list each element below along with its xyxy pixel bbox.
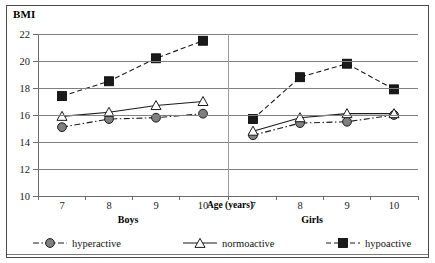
y-axis-title: BMI <box>13 8 36 20</box>
x-tick-label-girls-10: 10 <box>383 200 405 211</box>
data-point <box>58 92 67 101</box>
data-point <box>198 97 208 106</box>
x-tick-mark <box>179 196 180 200</box>
legend-entry-hyperactive[interactable]: hyperactive <box>33 233 121 253</box>
panel-title-boys: Boys <box>88 214 168 225</box>
data-point <box>343 117 352 126</box>
panel-divider <box>228 34 229 197</box>
y-tick-label: 14 <box>4 137 30 148</box>
x-tick-label-boys-9: 9 <box>145 200 167 211</box>
legend-key-hyperactive <box>33 236 67 250</box>
data-point <box>199 109 208 118</box>
x-tick-mark <box>85 196 86 200</box>
x-tick-mark <box>418 196 419 200</box>
y-tick-label: 16 <box>4 110 30 121</box>
legend-key-normoactive <box>183 236 217 250</box>
x-tick-label-boys-8: 8 <box>98 200 120 211</box>
x-tick-label-girls-8: 8 <box>289 200 311 211</box>
y-tick-label: 20 <box>4 56 30 67</box>
bmi-growth-chart: BMI 22 20 18 16 14 12 10 <box>0 0 435 263</box>
x-tick-mark <box>38 196 39 200</box>
legend-label-hyperactive: hyperactive <box>72 238 121 249</box>
legend-key-hypoactive <box>326 236 360 250</box>
data-point <box>296 73 305 82</box>
x-tick-mark <box>323 196 324 200</box>
x-tick-mark <box>132 196 133 200</box>
legend: hyperactive normoactive hypoactive <box>8 233 427 255</box>
y-tick-label: 12 <box>4 164 30 175</box>
x-tick-label-boys-7: 7 <box>51 200 73 211</box>
data-point <box>390 85 399 94</box>
y-tick-label: 22 <box>4 29 30 40</box>
legend-separator <box>7 254 428 255</box>
x-tick-mark <box>276 196 277 200</box>
legend-entry-hypoactive[interactable]: hypoactive <box>326 233 411 253</box>
x-tick-label-girls-9: 9 <box>336 200 358 211</box>
x-axis-title: Age (years) <box>190 200 270 210</box>
panel-title-girls: Girls <box>272 214 352 225</box>
data-point <box>58 123 67 132</box>
data-point <box>105 77 114 86</box>
square-marker-icon <box>339 239 348 248</box>
x-tick-mark <box>370 196 371 200</box>
y-tick-label: 18 <box>4 83 30 94</box>
circle-marker-icon <box>46 239 55 248</box>
y-tick-label: 10 <box>4 191 30 202</box>
legend-label-normoactive: normoactive <box>222 238 274 249</box>
legend-entry-normoactive[interactable]: normoactive <box>183 233 274 253</box>
legend-label-hypoactive: hypoactive <box>365 238 411 249</box>
data-point <box>199 36 208 45</box>
series-line-hypoactive-girls <box>253 64 394 119</box>
